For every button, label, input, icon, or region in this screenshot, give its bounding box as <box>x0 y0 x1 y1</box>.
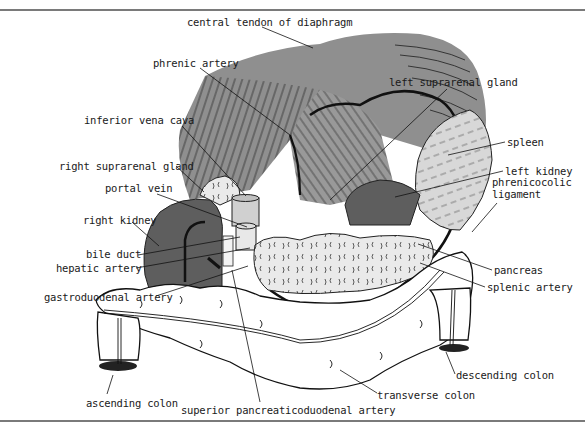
leader-line-ascending-colon <box>107 375 113 394</box>
descending-colon-lumen <box>439 344 469 352</box>
label-phrenicocolic-ligament: phrenicocolic ligament <box>492 176 572 200</box>
label-spleen: spleen <box>507 136 544 148</box>
label-right-suprarenal-gland: right suprarenal gland <box>59 160 194 172</box>
label-right-kidney: right kidney <box>83 214 156 226</box>
portal-vein-shape <box>236 226 256 250</box>
label-portal-vein: portal vein <box>105 182 172 194</box>
label-left-suprarenal-gland: left suprarenal gland <box>389 76 518 88</box>
label-inferior-vena-cava: inferior vena cava <box>84 114 194 126</box>
label-splenic-artery: splenic artery <box>487 281 573 293</box>
label-pancreas: pancreas <box>494 264 543 276</box>
inferior-vena-cava-shape <box>232 198 259 226</box>
leader-line-descending-colon <box>446 352 455 374</box>
label-central-tendon: central tendon of diaphragm <box>187 16 352 28</box>
label-transverse-colon: transverse colon <box>377 389 475 401</box>
label-hepatic-artery: hepatic artery <box>56 262 142 274</box>
label-descending-colon: descending colon <box>456 369 554 381</box>
label-ascending-colon: ascending colon <box>86 397 178 409</box>
leader-line-central-tendon <box>262 27 313 48</box>
label-gastroduodenal-artery: gastroduodenal artery <box>44 291 173 303</box>
label-bile-duct: bile duct <box>86 248 141 260</box>
label-superior-pancreaticoduodenal-artery: superior pancreaticoduodenal artery <box>181 404 395 416</box>
label-phrenic-artery: phrenic artery <box>153 57 239 69</box>
